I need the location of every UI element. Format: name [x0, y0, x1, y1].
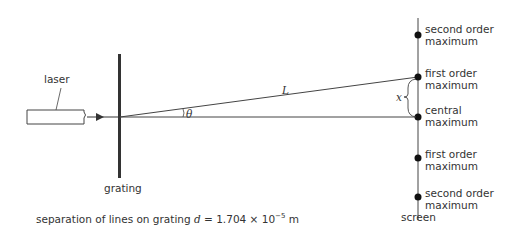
grating-bar [118, 54, 121, 178]
x-brace [404, 79, 416, 117]
separation-x-label: x [396, 91, 402, 103]
angle-arc [183, 109, 184, 117]
diagram-stage: laser grating L θ x second order maximum… [0, 0, 512, 234]
maximum-label-central: central maximum [425, 104, 478, 128]
maximum-label-second-lower: second order maximum [425, 187, 494, 211]
maximum-label-first-lower: first order maximum [425, 148, 478, 172]
maximum-dot-second-upper [415, 32, 422, 39]
maximum-label-first-upper: first order maximum [425, 67, 478, 91]
laser-leader-line [56, 88, 61, 110]
maximum-dot-first-lower [415, 155, 422, 162]
beam-arrow-icon [96, 113, 104, 121]
first-order-beam [120, 77, 418, 117]
angle-label: θ [186, 108, 192, 120]
grating-label: grating [104, 182, 142, 194]
laser-body [27, 110, 86, 124]
grating-separation-caption: separation of lines on grating d = 1.704… [36, 210, 299, 225]
path-length-label: L [282, 84, 289, 96]
maximum-label-second-upper: second order maximum [425, 23, 494, 47]
laser-label: laser [44, 73, 70, 85]
maximum-dot-second-lower [415, 194, 422, 201]
screen-label: screen [401, 211, 436, 223]
